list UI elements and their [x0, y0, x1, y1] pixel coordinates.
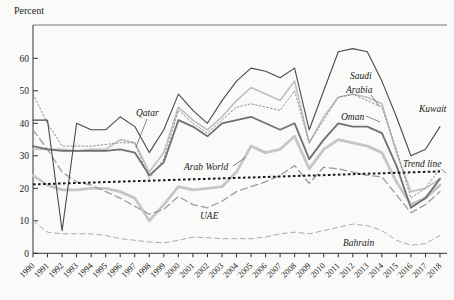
- label-leader-arabia: [371, 95, 379, 106]
- series-label-arabia: Arabia: [345, 85, 373, 95]
- label-leader-trend-line: [441, 169, 446, 173]
- series-label-kuwait: Kuwait: [418, 104, 447, 114]
- series-label-qatar: Qatar: [136, 108, 159, 118]
- series-kuwait-line: [33, 49, 440, 231]
- x-tick-label: 2018: [424, 261, 443, 280]
- y-tick-label: 20: [20, 184, 30, 194]
- chart-canvas: 0102030405060199019911992199319941995199…: [0, 0, 454, 300]
- label-leader-qatar: [136, 119, 147, 147]
- y-tick-label: 50: [20, 86, 30, 96]
- investment-percent-line-chart: Percent 01020304050601990199119921993199…: [0, 0, 454, 300]
- series-oman-line: [33, 117, 440, 208]
- y-tick-label: 30: [20, 151, 30, 161]
- series-label-saudi: Saudi: [350, 71, 372, 81]
- series-label-uae: UAE: [200, 211, 219, 221]
- series-qatar-line: [33, 81, 440, 192]
- y-tick-label: 10: [20, 216, 30, 226]
- series-label-bahrain: Bahrain: [343, 238, 374, 248]
- series-label-trend-line: Trend line: [403, 159, 441, 169]
- label-leader-oman: [366, 116, 380, 122]
- series-bahrain-line: [33, 221, 440, 245]
- series-label-arab-world: Arab World: [183, 162, 229, 172]
- y-tick-label: 0: [24, 249, 29, 259]
- y-tick-label: 40: [20, 119, 30, 129]
- y-tick-label: 60: [20, 54, 30, 64]
- series-label-oman: Oman: [341, 112, 364, 122]
